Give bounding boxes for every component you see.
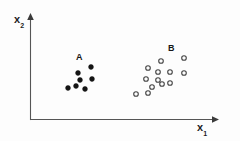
data-point	[89, 65, 94, 70]
data-point	[74, 84, 79, 89]
data-point	[156, 70, 161, 75]
scatter-plot-figure: x2 x1 A B	[0, 0, 240, 141]
cluster-b-points	[134, 56, 187, 97]
cluster-b-label: B	[168, 44, 175, 53]
data-point	[144, 77, 149, 82]
cluster-a-points	[66, 65, 95, 92]
data-point	[146, 91, 151, 96]
data-point	[90, 77, 95, 82]
x-axis-label-subscript: 1	[203, 130, 207, 137]
axes-group	[27, 13, 219, 123]
data-point	[182, 56, 187, 61]
data-point	[156, 78, 161, 83]
data-point	[146, 66, 151, 71]
y-axis-label: x2	[14, 14, 24, 27]
data-point	[83, 87, 88, 92]
data-point	[159, 59, 164, 64]
x-axis-label: x1	[197, 122, 207, 135]
data-point	[66, 86, 71, 91]
data-point	[168, 70, 173, 75]
data-point	[76, 71, 81, 76]
x-axis-arrowhead	[212, 116, 219, 123]
data-point	[78, 78, 83, 83]
data-point	[134, 92, 139, 97]
plot-canvas	[0, 0, 240, 141]
data-point	[168, 81, 173, 86]
data-point	[182, 71, 187, 76]
y-axis-label-subscript: 2	[20, 22, 24, 29]
cluster-a-label: A	[76, 53, 83, 62]
data-point	[150, 85, 155, 90]
y-axis-arrowhead	[27, 13, 34, 20]
data-point	[160, 82, 165, 87]
